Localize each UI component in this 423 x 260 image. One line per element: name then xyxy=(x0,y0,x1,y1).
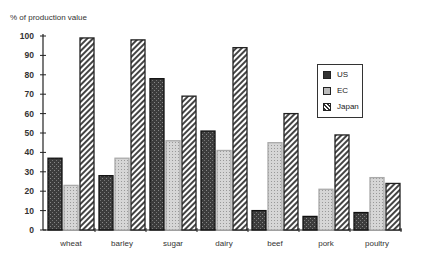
y-tick-label: 0 xyxy=(29,225,34,235)
y-tick-label: 100 xyxy=(20,31,34,41)
bar-dairy-ec xyxy=(217,150,231,230)
x-category-label: beef xyxy=(267,239,283,248)
y-tick-label: 30 xyxy=(25,167,35,177)
x-category-label: dairy xyxy=(215,239,232,248)
x-category-label: wheat xyxy=(59,239,82,248)
bar-pork-us xyxy=(303,216,317,230)
bar-beef-ec xyxy=(268,143,282,230)
bar-wheat-japan xyxy=(80,38,94,230)
bar-sugar-us xyxy=(150,79,164,230)
x-category-label: pork xyxy=(318,239,335,248)
y-tick-label: 20 xyxy=(25,186,35,196)
x-category-label: poultry xyxy=(365,239,389,248)
us-swatch-icon xyxy=(323,71,331,79)
bar-chart: 0102030405060708090100 wheatbarleysugard… xyxy=(0,0,423,260)
legend: US EC Japan xyxy=(317,64,363,118)
x-category-label: sugar xyxy=(163,239,183,248)
bar-barley-japan xyxy=(131,40,145,230)
y-tick-label: 70 xyxy=(25,89,35,99)
bar-poultry-us xyxy=(354,213,368,230)
y-tick-label: 40 xyxy=(25,147,35,157)
legend-label: US xyxy=(337,70,348,79)
y-tick-label: 90 xyxy=(25,50,35,60)
bar-poultry-ec xyxy=(370,178,384,230)
bar-beef-us xyxy=(252,211,266,230)
legend-item-us: US xyxy=(323,70,348,79)
y-tick-label: 50 xyxy=(25,128,35,138)
bar-pork-japan xyxy=(335,135,349,230)
bar-dairy-japan xyxy=(233,48,247,230)
bar-sugar-japan xyxy=(182,96,196,230)
legend-label: EC xyxy=(337,86,348,95)
legend-item-ec: EC xyxy=(323,86,348,95)
bar-poultry-japan xyxy=(386,183,400,230)
ec-swatch-icon xyxy=(323,87,331,95)
japan-swatch-icon xyxy=(323,103,331,111)
bar-wheat-us xyxy=(48,158,62,230)
bar-pork-ec xyxy=(319,189,333,230)
y-tick-label: 80 xyxy=(25,70,35,80)
legend-label: Japan xyxy=(337,102,359,111)
bar-wheat-ec xyxy=(64,185,78,230)
x-category-label: barley xyxy=(111,239,133,248)
y-tick-label: 10 xyxy=(25,206,35,216)
y-tick-label: 60 xyxy=(25,109,35,119)
bar-dairy-us xyxy=(201,131,215,230)
legend-item-japan: Japan xyxy=(323,102,359,111)
bar-sugar-ec xyxy=(166,141,180,230)
bar-beef-japan xyxy=(284,114,298,230)
bar-barley-us xyxy=(99,176,113,230)
category-labels: wheatbarleysugardairybeefporkpoultry xyxy=(59,239,389,248)
bar-barley-ec xyxy=(115,158,129,230)
